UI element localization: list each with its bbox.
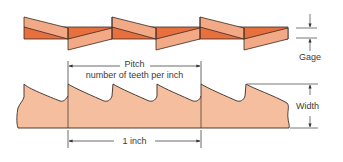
saw-blade-diagram: Gage Pitch number of teeth per inch Widt… xyxy=(0,0,343,162)
gage-label: Gage xyxy=(299,52,321,62)
pitch-sublabel: number of teeth per inch xyxy=(86,70,184,80)
one-inch-label: 1 inch xyxy=(122,136,146,146)
blade-top-view xyxy=(24,17,288,50)
pitch-label: Pitch xyxy=(124,59,144,69)
blade-side-view xyxy=(17,84,289,128)
gage-dimension xyxy=(296,14,317,51)
width-label: Width xyxy=(296,101,319,111)
